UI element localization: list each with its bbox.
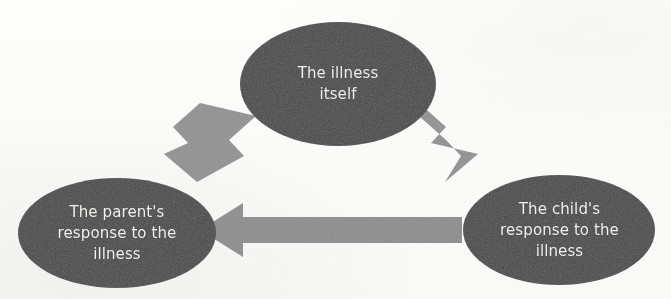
node-parent[interactable] — [18, 178, 216, 288]
diagram-graphics — [0, 0, 671, 299]
arrow-child-to-parent — [200, 203, 462, 257]
nodes-layer — [18, 22, 655, 288]
arrow-illness-to-parent — [164, 103, 256, 182]
diagram-canvas: The illness itself The parent's response… — [0, 0, 671, 299]
node-child[interactable] — [463, 175, 655, 285]
node-illness[interactable] — [240, 22, 436, 146]
arrow-illness-to-child — [419, 103, 478, 182]
